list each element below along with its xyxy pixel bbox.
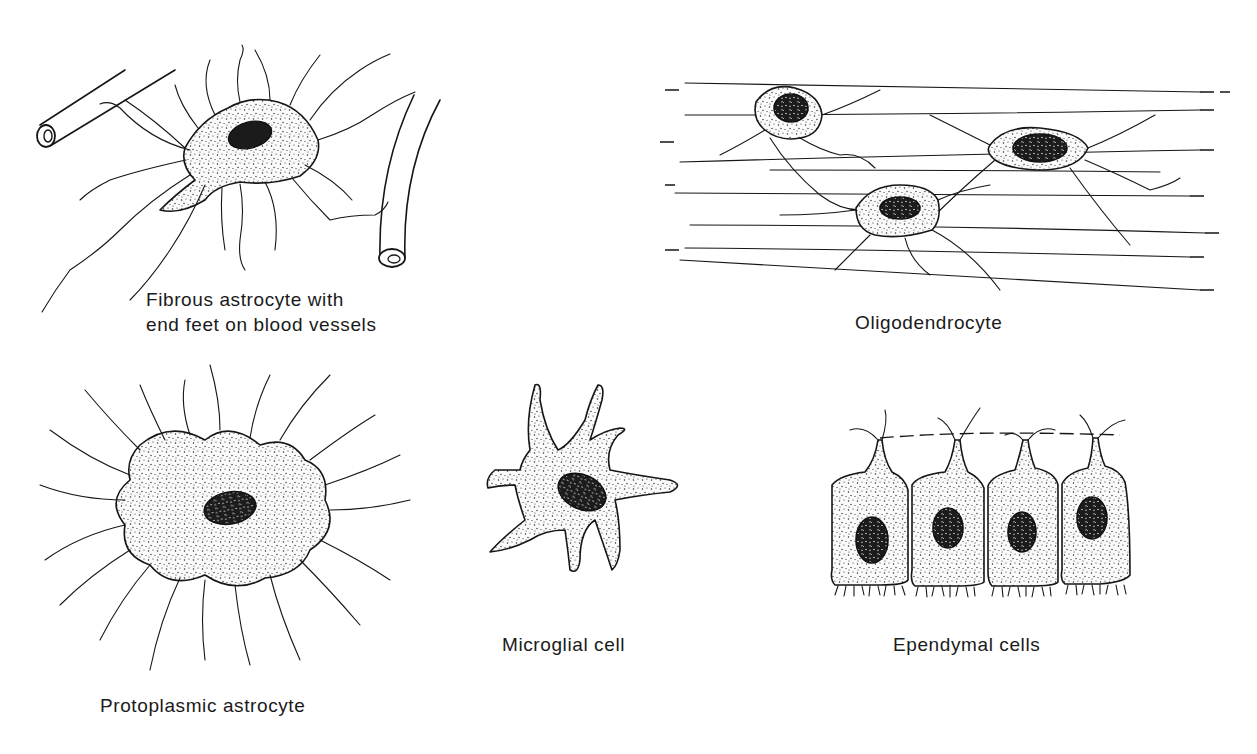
caption-line-1: Fibrous astrocyte with [146,287,377,312]
cilia [835,585,1126,597]
oligodendrocyte-cell-1 [720,87,880,210]
caption-line-2: end feet on blood vessels [146,312,377,337]
caption-fibrous-astrocyte: Fibrous astrocyte with end feet on blood… [146,287,377,337]
ependymal-cells-drawing [820,400,1150,620]
panel-fibrous-astrocyte: Fibrous astrocyte with end feet on blood… [0,0,460,340]
caption-oligodendrocyte: Oligodendrocyte [855,310,1002,335]
fibrous-astrocyte-drawing [0,0,460,300]
oligodendrocyte-cell-3 [780,185,1000,290]
protoplasmic-astrocyte-drawing [30,360,440,690]
panel-microglial-cell: Microglial cell [470,370,710,660]
ependymal-cell-3 [988,429,1058,586]
oligodendrocyte-drawing [660,60,1240,300]
panel-oligodendrocyte: Oligodendrocyte [660,60,1240,340]
oligodendrocyte-cell-2 [930,115,1180,245]
caption-protoplasmic-astrocyte: Protoplasmic astrocyte [100,693,305,718]
panel-ependymal-cells: Ependymal cells [820,400,1150,670]
blood-vessel-right [379,95,440,267]
ependymal-cell-4 [1061,415,1130,584]
caption-microglial-cell: Microglial cell [502,632,625,657]
axon-fibres [660,83,1230,290]
microglial-cell-drawing [470,370,710,600]
panel-protoplasmic-astrocyte: Protoplasmic astrocyte [30,360,440,730]
caption-ependymal-cells: Ependymal cells [893,632,1040,657]
ependymal-cell-1 [831,410,908,585]
